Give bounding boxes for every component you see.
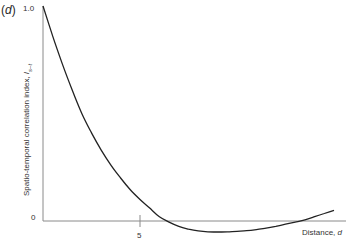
correlation-curve [43,6,334,232]
x-axis-label: Distance, d [302,228,342,237]
line-chart [0,0,354,244]
y-tick-0: 0 [31,213,35,222]
x-tick-label-5: 5 [137,231,141,240]
y-axis-label: Spatio-temporal correlation index, Is–t [22,64,33,196]
y-tick-1: 1.0 [23,4,34,13]
